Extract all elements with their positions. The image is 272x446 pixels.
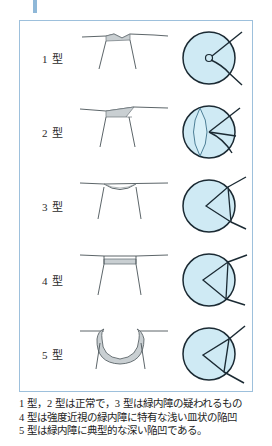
caption-line-1: 1 型，2 型は正常で，3 型は緑内障の疑われるもの xyxy=(19,397,259,411)
optic-disc-type-4 xyxy=(176,243,254,317)
row-label-type-2: 2 型 xyxy=(42,124,64,140)
figure-page: 1 型 2 型 xyxy=(0,0,272,446)
row-label-type-4: 4 型 xyxy=(42,272,64,288)
deep-cup-profile-type-5 xyxy=(76,317,172,391)
table-row: 5 型 xyxy=(20,317,254,391)
saucer-profile-type-3 xyxy=(76,169,172,243)
caption-line-2: 4 型は強度近視の緑内障に特有な浅い皿状の陥凹 xyxy=(19,411,259,425)
figure-caption: 1 型，2 型は正常で，3 型は緑内障の疑われるもの 4 型は強度近視の緑内障に… xyxy=(19,397,259,438)
optic-disc-type-2 xyxy=(176,95,254,169)
optic-disc-type-5 xyxy=(176,317,254,391)
table-row: 4 型 xyxy=(20,243,254,317)
caption-line-3: 5 型は緑内障に典型的な深い陥凹である。 xyxy=(19,424,259,438)
flat-bottom-profile-type-4 xyxy=(76,243,172,317)
row-label-type-1: 1 型 xyxy=(42,50,64,66)
table-row: 3 型 xyxy=(20,169,254,243)
flat-profile-type-1 xyxy=(76,21,172,95)
sloped-profile-type-2 xyxy=(76,95,172,169)
table-row: 1 型 xyxy=(20,21,254,95)
row-label-type-5: 5 型 xyxy=(42,346,64,362)
optic-disc-type-3 xyxy=(176,169,254,243)
row-label-type-3: 3 型 xyxy=(42,198,64,214)
optic-disc-type-1 xyxy=(176,21,254,95)
figure-box: 1 型 2 型 xyxy=(19,20,253,392)
table-row: 2 型 xyxy=(20,95,254,169)
page-marker-icon xyxy=(33,0,37,13)
